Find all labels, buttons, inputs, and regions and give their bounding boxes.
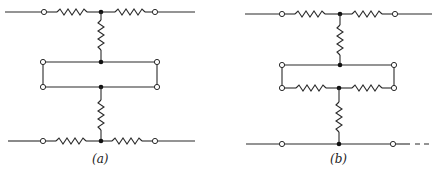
- resistor-b-top-right: [352, 11, 382, 17]
- terminal-a-top-right: [152, 9, 157, 14]
- panel-b-label: (b): [330, 152, 347, 166]
- terminal-b-bottom-left: [279, 141, 284, 146]
- panel-b-top-line: [245, 11, 432, 17]
- terminal-a-top-left: [41, 9, 46, 14]
- panel-a: (a): [5, 9, 195, 166]
- panel-b-bottom-line: [246, 141, 432, 146]
- panel-a-loop: [40, 59, 159, 89]
- circuit-diagram: (a): [0, 0, 439, 171]
- panel-a-bottom-line: [8, 138, 195, 144]
- panel-a-label: (a): [92, 152, 109, 166]
- panel-b: (b): [245, 11, 432, 166]
- junction-a-bottom: [99, 139, 104, 144]
- terminal-b-top-left: [279, 11, 284, 16]
- terminal-a-loop-bl: [40, 84, 45, 89]
- resistor-a-bottom-left: [56, 138, 86, 144]
- resistor-a-top-left: [57, 9, 87, 15]
- terminal-b-loop-tr: [391, 62, 396, 67]
- resistor-b-upper-shunt: [337, 25, 343, 55]
- junction-b-loop-top: [338, 63, 343, 68]
- terminal-b-loop-bl: [279, 85, 284, 90]
- terminal-b-loop-tl: [279, 62, 284, 67]
- terminal-a-loop-tl: [40, 59, 45, 64]
- resistor-b-loop-right: [352, 85, 382, 91]
- panel-b-loop: [279, 62, 396, 91]
- panel-a-top-line: [5, 9, 195, 15]
- resistor-b-lower-shunt: [336, 102, 342, 132]
- terminal-a-loop-tr: [154, 59, 159, 64]
- resistor-b-top-left: [295, 11, 325, 17]
- resistor-b-loop-left: [296, 85, 326, 91]
- terminal-b-top-right: [392, 11, 397, 16]
- terminal-a-bottom-right: [152, 138, 157, 143]
- resistor-a-lower-shunt: [98, 100, 104, 130]
- resistor-a-bottom-right: [112, 138, 142, 144]
- resistor-a-upper-shunt: [98, 20, 104, 50]
- terminal-a-bottom-left: [40, 138, 45, 143]
- junction-b-bottom: [337, 142, 342, 147]
- terminal-b-loop-br: [391, 85, 396, 90]
- resistor-a-top-right: [115, 9, 145, 15]
- terminal-a-loop-br: [154, 84, 159, 89]
- terminal-b-bottom-right: [390, 141, 395, 146]
- junction-a-loop-top: [99, 60, 104, 65]
